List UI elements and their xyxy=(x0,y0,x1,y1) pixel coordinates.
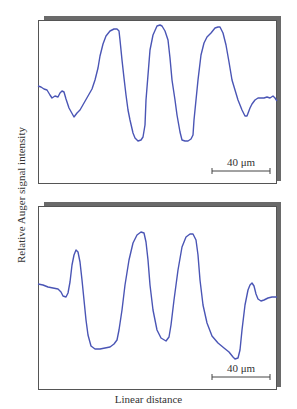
x-axis-label: Linear distance xyxy=(0,393,297,405)
y-axis-label: Relative Auger signal intensity xyxy=(15,127,27,263)
bottom-scale-label: 40 μm xyxy=(227,362,256,374)
bottom-panel: 40 μm xyxy=(38,202,281,390)
top-scale-label: 40 μm xyxy=(227,156,256,168)
top-panel-shadow-right xyxy=(277,16,281,181)
figure: 40 μm 40 μm Relative Auger signal intens… xyxy=(0,0,297,409)
top-panel: 40 μm xyxy=(38,16,281,184)
chart-canvas: 40 μm 40 μm xyxy=(0,0,297,409)
bottom-panel-shadow-right xyxy=(277,202,281,387)
